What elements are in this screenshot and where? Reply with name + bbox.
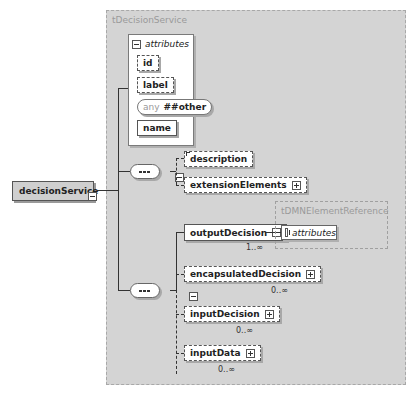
cardinality-label: 0..∞ [218, 365, 235, 374]
type-label: tDecisionService [112, 15, 187, 25]
expand-icon[interactable] [285, 228, 288, 237]
connector-dashed [176, 158, 184, 159]
expand-icon[interactable] [292, 181, 301, 190]
element-extensionelements[interactable]: extensionElements [184, 177, 307, 193]
attribute-id[interactable]: id [137, 55, 159, 71]
collapse-icon[interactable] [189, 292, 198, 301]
element-encapsulateddecision[interactable]: encapsulatedDecision [184, 266, 321, 282]
expand-icon[interactable] [246, 349, 255, 358]
sequence-compositor[interactable] [130, 164, 160, 179]
root-element-decisionservice[interactable]: decisionService [12, 181, 94, 201]
connector-dashed [176, 158, 177, 185]
connector-line [118, 88, 128, 89]
connector-dashed [176, 185, 184, 186]
cardinality-label: 1..∞ [246, 243, 263, 252]
attribute-any-other[interactable]: any ##other [137, 99, 212, 115]
connector-line [176, 232, 184, 233]
cardinality-label: 0..∞ [271, 286, 288, 295]
collapse-icon[interactable] [88, 192, 97, 201]
connector-line [118, 171, 130, 172]
connector-dashed [176, 314, 184, 315]
type-label: tDMNElementReference [281, 206, 389, 216]
connector-line [97, 190, 118, 191]
connector-dashed [176, 274, 184, 275]
connector-line [118, 290, 130, 291]
connector-dashed [176, 290, 177, 374]
reference-attributes-group[interactable]: attributes [281, 225, 337, 240]
cardinality-label: 0..∞ [236, 326, 253, 335]
element-inputdecision[interactable]: inputDecision [184, 306, 280, 322]
connector-dashed [176, 353, 184, 354]
attribute-label[interactable]: label [137, 77, 174, 93]
element-description[interactable]: description [184, 151, 253, 167]
attributes-title: attributes [145, 39, 189, 49]
attributes-header[interactable]: attributes [132, 37, 189, 51]
expand-icon[interactable] [265, 310, 274, 319]
element-inputdata[interactable]: inputData [184, 345, 261, 361]
collapse-icon[interactable] [132, 40, 141, 49]
sequence-compositor[interactable] [130, 283, 160, 298]
attribute-name[interactable]: name [137, 120, 177, 136]
documentation-marker-icon [186, 152, 190, 156]
connector-line [176, 232, 177, 290]
expand-icon[interactable] [306, 270, 315, 279]
connector-spine [118, 88, 119, 291]
